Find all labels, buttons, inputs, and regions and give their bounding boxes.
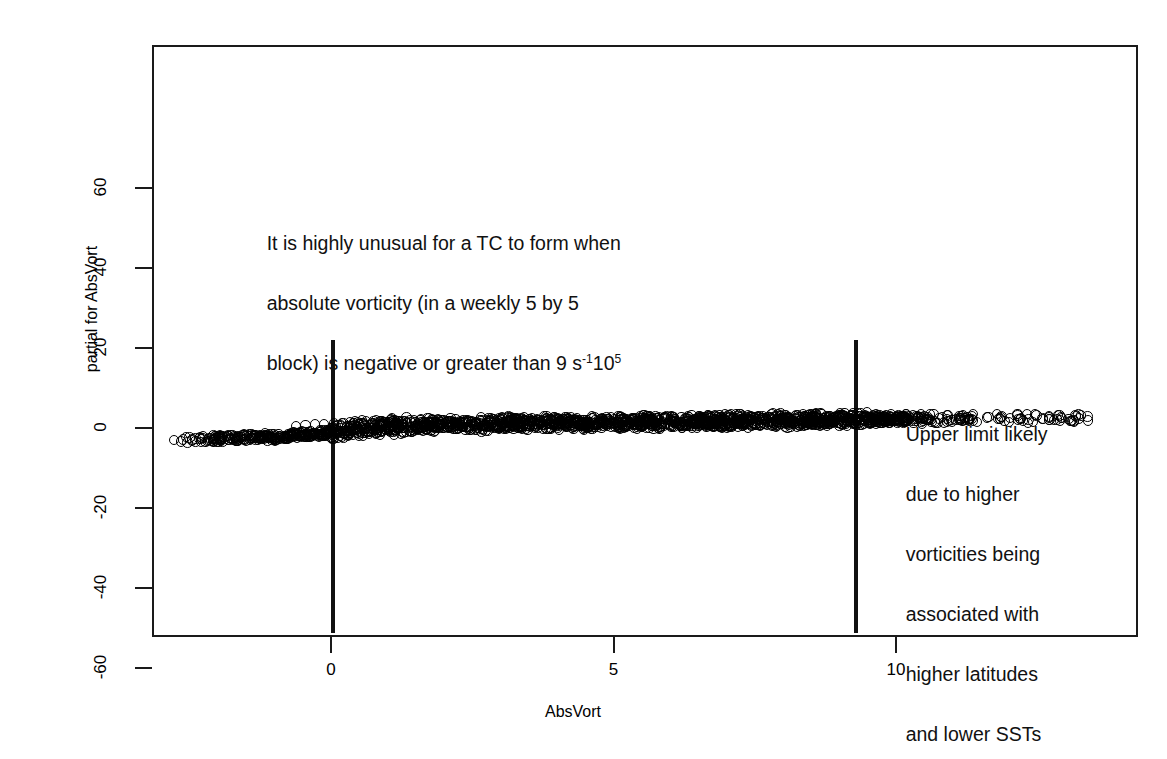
scatter-plot-figure: 6040200-20-40-60 0510 partial for AbsVor… [0,0,1167,759]
y-axis-tick [135,187,152,189]
scatter-point [398,427,408,437]
annotation-left-sup2: 5 [615,352,622,366]
y-axis-tick [135,507,152,509]
annotation-right-line4: associated with [906,603,1039,625]
y-axis-tick [135,587,152,589]
scatter-point [635,419,645,429]
scatter-point [638,410,648,420]
scatter-point [368,418,378,428]
scatter-point [755,419,765,429]
scatter-point [707,418,717,428]
scatter-point [338,418,348,428]
scatter-point [738,413,748,423]
annotation-right-line1: Upper limit likely [906,423,1048,445]
annotation-left-sup1: -1 [582,352,593,366]
scatter-point [493,422,503,432]
scatter-point [444,416,454,426]
scatter-point [557,414,567,424]
scatter-point [624,417,634,427]
annotation-right-line5: higher latitudes [906,663,1038,685]
annotation-left-line1: It is highly unusual for a TC to form wh… [267,232,621,254]
y-axis-tick [135,667,152,669]
scatter-point [379,417,389,427]
annotation-left-line3b: 10 [593,352,615,374]
scatter-point [314,429,324,439]
scatter-point [576,419,586,429]
y-axis-tick-label: -60 [91,644,111,690]
y-axis-tick [135,267,152,269]
scatter-point [464,416,474,426]
annotation-right-line3: vorticities being [906,543,1040,565]
y-axis-tick [135,347,152,349]
scatter-point [681,413,691,423]
y-axis-tick [135,427,152,429]
annotation-left-line3a: block) is negative or greater than 9 s [267,352,582,374]
x-axis-tick [613,637,615,653]
scatter-point [391,417,401,427]
scatter-point [430,417,440,427]
scatter-point [531,421,541,431]
scatter-point [829,412,839,422]
scatter-point [229,431,239,441]
scatter-point [512,415,522,425]
scatter-point [659,420,669,430]
annotation-left-line2: absolute vorticity (in a weekly 5 by 5 [267,292,579,314]
y-axis-tick-label: -20 [91,484,111,530]
y-axis-tick-label: -40 [91,564,111,610]
scatter-point [783,413,793,423]
y-axis-title: partial for AbsVort [83,209,101,409]
scatter-point [249,431,259,441]
annotation-right-line2: due to higher [906,483,1020,505]
reference-line-upper-threshold [854,340,858,633]
y-axis-tick-label: 60 [91,164,111,210]
x-axis-title: AbsVort [545,703,601,721]
scatter-point [587,413,597,423]
scatter-point [803,410,813,420]
scatter-point [693,413,703,423]
annotation-right-line6: and lower SSTs [906,723,1041,745]
x-axis-tick-label: 0 [301,660,361,680]
scatter-point [296,430,306,440]
annotation-lower-threshold: It is highly unusual for a TC to form wh… [245,198,745,408]
scatter-point [545,422,555,432]
scatter-point [416,417,426,427]
x-axis-tick [330,637,332,653]
scatter-point [723,418,733,428]
annotation-upper-threshold: Upper limit likely due to higher vortici… [884,389,1099,759]
x-axis-tick-label: 5 [584,660,644,680]
y-axis-tick-label: 0 [91,404,111,450]
scatter-point [863,412,873,422]
